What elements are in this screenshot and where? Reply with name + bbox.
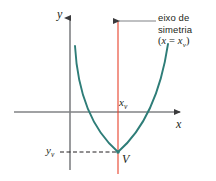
y-vertex-label-subscript: v (51, 150, 54, 159)
formula-close-paren: ) (186, 35, 190, 46)
x-vertex-label: xv (119, 97, 127, 111)
y-axis-label: y (57, 8, 62, 20)
axis-of-symmetry-annotation: eixo de simetria (x = xv) (158, 12, 216, 52)
annotation-line-1: eixo de (158, 12, 216, 24)
annotation-line-2: simetria (158, 24, 216, 36)
x-axis-label: x (176, 118, 181, 130)
x-vertex-label-subscript: v (124, 102, 127, 111)
parabola-figure: y x xv yv V eixo de simetria (x = xv) (0, 0, 216, 181)
formula-equals: = (166, 35, 177, 46)
vertex-point-marker (116, 150, 120, 154)
vertex-label: V (122, 153, 129, 165)
y-vertex-label: yv (46, 145, 54, 159)
annotation-formula: (x = xv) (158, 35, 216, 52)
